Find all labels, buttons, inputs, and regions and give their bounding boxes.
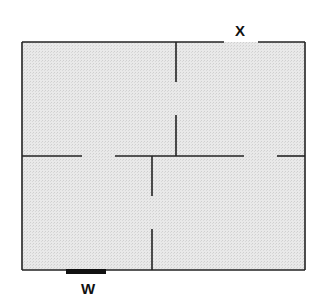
- label-x: X: [235, 22, 245, 39]
- floor-plan: [0, 0, 324, 308]
- label-w: W: [81, 280, 95, 297]
- window-w: [66, 269, 106, 274]
